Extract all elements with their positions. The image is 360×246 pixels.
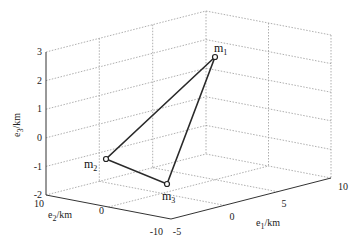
data-points (104, 55, 218, 187)
z-axis-label: e3/km (11, 113, 25, 137)
svg-text:-1: -1 (34, 161, 42, 172)
x-axis-label: e1/km (256, 217, 280, 231)
svg-text:10: 10 (34, 198, 44, 209)
svg-text:10: 10 (338, 181, 348, 192)
point-m2 (104, 157, 109, 162)
point-m3 (165, 182, 170, 187)
triangle (106, 57, 215, 184)
label-m1: m1 (214, 41, 227, 57)
svg-text:5: 5 (282, 198, 287, 209)
z-axis-ticks: 3 2 1 0 -1 -2 (34, 46, 42, 200)
grid-lines (46, 11, 331, 207)
y-axis-label: e2/km (48, 209, 72, 223)
svg-text:3: 3 (37, 46, 42, 57)
svg-text:e3/km: e3/km (11, 113, 25, 137)
svg-text:0: 0 (230, 211, 235, 222)
svg-text:-10: -10 (150, 226, 163, 237)
3d-plot: 3 2 1 0 -1 -2 10 0 -10 -5 0 5 10 e3/km e… (0, 0, 360, 246)
point-m1 (213, 55, 218, 60)
svg-text:0: 0 (37, 132, 42, 143)
label-m3: m3 (162, 189, 175, 205)
svg-text:2: 2 (37, 75, 42, 86)
svg-text:-5: -5 (173, 226, 181, 237)
svg-text:1: 1 (37, 103, 42, 114)
axes (46, 52, 331, 219)
svg-text:0: 0 (99, 205, 104, 216)
label-m2: m2 (84, 157, 97, 173)
